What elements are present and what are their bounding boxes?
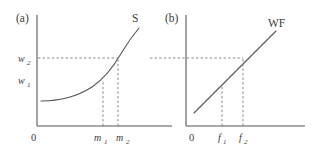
panel-b-curve-label: WF [268,17,285,29]
panel-b: (b) WF 0 f 1 f [150,12,305,146]
panel-a-origin-label: 0 [31,132,36,143]
panel-a-x-tick-m2-base: m [116,132,123,143]
panel-a-curve-label: S [132,12,138,24]
panel-a-y-tick-w2-sub: 2 [27,59,31,67]
panel-a-x-tick-m2-sub: 2 [126,138,130,146]
panel-b-x-tick-f1: f 1 [218,132,227,146]
panel-a-x-tick-m1: m 1 [94,132,108,146]
panel-b-x-tick-f1-base: f [218,132,222,143]
figure-container: (a) S w 2 w 1 [0,0,312,148]
panel-a-y-tick-w1: w 1 [18,75,31,89]
panel-a-supply-curve [41,28,139,101]
panel-b-x-tick-f2-base: f [239,132,243,143]
economics-figure: (a) S w 2 w 1 [0,0,312,148]
panel-a-y-tick-w2: w 2 [18,53,31,67]
panel-a-tag: (a) [16,12,29,25]
panel-b-x-tick-f1-sub: 1 [223,138,227,146]
panel-b-wage-frontier-line [194,31,276,113]
panel-b-tag: (b) [165,12,179,25]
panel-a-y-tick-w2-base: w [18,53,25,64]
panel-b-origin-label: 0 [189,132,194,143]
panel-a-y-tick-w1-base: w [18,75,25,86]
panel-b-x-tick-f2-sub: 2 [244,138,248,146]
panel-a: (a) S w 2 w 1 [16,12,172,146]
panel-a-x-tick-m2: m 2 [116,132,130,146]
panel-b-x-tick-f2: f 2 [239,132,248,146]
panel-a-x-tick-m1-base: m [94,132,101,143]
panel-a-x-tick-m1-sub: 1 [104,138,108,146]
panel-a-y-tick-w1-sub: 1 [27,81,31,89]
